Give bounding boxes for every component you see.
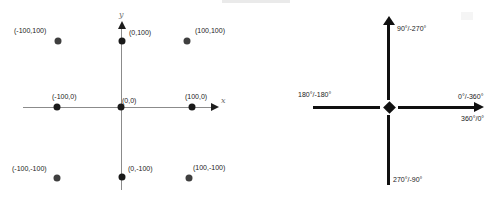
data-point-dot bbox=[119, 38, 126, 45]
up-arrow-shaft bbox=[387, 25, 390, 100]
right-arrowhead-icon bbox=[474, 102, 484, 112]
x-axis-arrowhead-icon bbox=[211, 103, 219, 111]
data-point-label: (0,0) bbox=[122, 97, 136, 105]
data-point-label: (-100,-100) bbox=[12, 165, 47, 173]
data-point-dot bbox=[55, 38, 62, 45]
angle-label-up: 90°/-270° bbox=[397, 25, 426, 33]
data-point-dot bbox=[54, 104, 61, 111]
data-point-label: (100,0) bbox=[185, 93, 207, 101]
data-point-dot bbox=[186, 175, 193, 182]
data-point-label: (0,100) bbox=[129, 29, 151, 37]
right-arrow-shaft bbox=[398, 106, 474, 109]
data-point-dot bbox=[119, 174, 126, 181]
center-marker-icon bbox=[383, 101, 396, 114]
scan-artifact bbox=[461, 12, 473, 20]
data-point-dot bbox=[184, 38, 191, 45]
scan-artifact bbox=[222, 0, 290, 3]
angle-label-left: 180°/-180° bbox=[298, 91, 331, 99]
y-axis-arrowhead-icon bbox=[118, 21, 126, 29]
y-axis-letter: y bbox=[119, 11, 124, 19]
data-point-label: (100,100) bbox=[195, 27, 225, 35]
left-arrow-shaft bbox=[313, 106, 380, 109]
data-point-label: (-100,0) bbox=[52, 93, 77, 101]
data-point-label: (100,-100) bbox=[193, 164, 225, 172]
data-point-dot bbox=[189, 104, 196, 111]
down-arrow-shaft bbox=[387, 115, 390, 185]
angle-label-down: 270°/-90° bbox=[393, 176, 422, 184]
up-arrowhead-icon bbox=[383, 16, 395, 25]
angle-label-right-bottom: 360°/0° bbox=[461, 115, 484, 123]
data-point-label: (0,-100) bbox=[128, 165, 153, 173]
figure-canvas: y x (-100,100) (0,100) (100,100) (-100,0… bbox=[0, 0, 501, 206]
data-point-dot bbox=[54, 175, 61, 182]
angle-label-right-top: 0°/-360° bbox=[458, 93, 483, 101]
x-axis-letter: x bbox=[221, 97, 226, 105]
data-point-label: (-100,100) bbox=[14, 27, 46, 35]
